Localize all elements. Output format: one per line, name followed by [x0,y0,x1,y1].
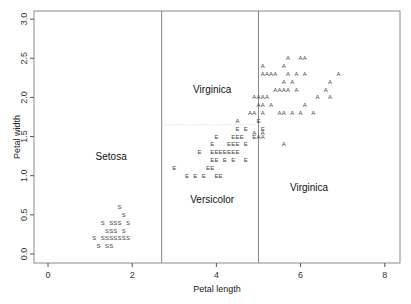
data-point-virginica: A [303,102,307,108]
data-point-virginica: A [336,71,340,77]
y-tick-label: 0.0 [19,248,29,261]
data-point-setosa: S [126,235,130,241]
data-point-versicolor: E [214,157,218,163]
data-point-virginica: A [252,110,256,116]
data-point-virginica: A [261,110,265,116]
data-point-virginica: A [261,102,265,108]
data-point-virginica: A [235,118,239,124]
data-point-versicolor: E [235,149,239,155]
x-axis-label: Petal length [193,284,241,294]
data-point-versicolor: E [202,173,206,179]
data-point-setosa: S [118,204,122,210]
data-point-virginica: A [303,55,307,61]
data-point-versicolor: E [193,173,197,179]
data-point-virginica: A [282,141,286,147]
data-point-virginica: A [328,94,332,100]
scatter-chart: 02468 0.00.51.01.52.02.53.0 Petal length… [0,0,411,304]
data-point-virginica: A [290,110,294,116]
region-label-setosa: Setosa [96,151,128,162]
data-point-versicolor: E [235,141,239,147]
data-point-virginica: A [261,130,265,136]
x-tick-label: 4 [214,270,219,280]
y-tick-label: 3.0 [19,13,29,26]
data-point-virginica: A [286,71,290,77]
data-point-virginica: A [282,63,286,69]
data-point-setosa: S [101,220,105,226]
data-point-setosa: S [122,212,126,218]
data-point-versicolor: E [244,157,248,163]
data-point-versicolor: E [214,134,218,140]
data-point-setosa: S [118,220,122,226]
data-point-virginica: A [294,87,298,93]
data-point-virginica: A [294,71,298,77]
data-point-virginica: A [290,79,294,85]
data-point-virginica: A [282,79,286,85]
data-point-versicolor: E [240,134,244,140]
data-point-versicolor: E [219,173,223,179]
data-point-virginica: A [311,110,315,116]
data-point-virginica: A [328,79,332,85]
data-point-versicolor: E [223,157,227,163]
data-point-virginica: A [303,71,307,77]
data-point-virginica: A [261,63,265,69]
y-axis-label: Petal width [12,115,22,159]
y-tick-label: 0.5 [19,209,29,222]
data-point-virginica: A [315,94,319,100]
data-point-versicolor: E [244,126,248,132]
region-label-virginica: Virginica [193,84,232,95]
data-point-versicolor: E [256,118,260,124]
data-point-versicolor: E [244,141,248,147]
region-label-virginica: Virginica [290,182,329,193]
region-label-versicolor: Versicolor [190,194,235,205]
data-point-setosa: S [113,228,117,234]
data-point-setosa: S [122,228,126,234]
y-tick-label: 2.0 [19,91,29,104]
data-point-versicolor: E [231,157,235,163]
x-axis: 02468 [45,263,387,280]
x-tick-label: 2 [130,270,135,280]
data-point-versicolor: E [198,149,202,155]
y-tick-label: 2.5 [19,52,29,65]
data-point-setosa: S [109,243,113,249]
data-point-versicolor: E [172,165,176,171]
x-tick-label: 6 [298,270,303,280]
x-tick-label: 0 [45,270,50,280]
data-point-versicolor: E [185,173,189,179]
x-tick-label: 8 [382,270,387,280]
data-point-virginica: A [324,87,328,93]
data-point-versicolor: E [210,165,214,171]
partition-lines [162,11,259,263]
data-point-setosa: S [92,235,96,241]
data-point-virginica: A [265,94,269,100]
data-point-versicolor: E [235,126,239,132]
data-point-setosa: S [126,220,130,226]
data-point-virginica: A [286,55,290,61]
data-point-versicolor: E [210,141,214,147]
data-point-virginica: A [269,102,273,108]
data-point-virginica: A [273,71,277,77]
data-point-virginica: A [282,110,286,116]
y-tick-label: 1.0 [19,169,29,182]
data-point-virginica: A [299,110,303,116]
data-point-setosa: S [97,243,101,249]
data-point-virginica: A [286,87,290,93]
